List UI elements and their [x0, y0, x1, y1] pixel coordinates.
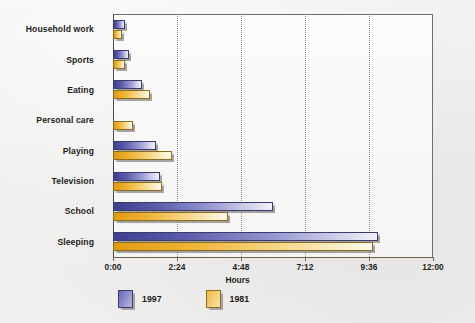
- gridline: [305, 14, 306, 257]
- x-tick-label: 9:36: [361, 262, 378, 272]
- category-label-sports: Sports: [0, 55, 94, 65]
- bar-school-1981[interactable]: [113, 212, 228, 221]
- bar-household-work-1997[interactable]: [113, 20, 125, 29]
- legend-swatch-1981: [206, 290, 221, 308]
- bar-eating-1997[interactable]: [113, 80, 142, 89]
- category-label-eating: Eating: [0, 85, 94, 95]
- legend-label-1981: 1981: [230, 294, 250, 304]
- x-axis-line: [113, 257, 434, 258]
- bar-television-1997[interactable]: [113, 172, 160, 181]
- x-tick-label: 2:24: [169, 262, 186, 272]
- bar-school-1997[interactable]: [113, 202, 273, 211]
- legend-label-1997: 1997: [142, 294, 162, 304]
- x-tick-label: 4:48: [233, 262, 250, 272]
- category-label-household-work: Household work: [0, 24, 94, 34]
- x-tick-label: 7:12: [297, 262, 314, 272]
- tick-mark: [369, 257, 370, 261]
- category-label-playing: Playing: [0, 146, 94, 156]
- tick-mark: [433, 257, 434, 261]
- category-label-sleeping: Sleeping: [0, 237, 94, 247]
- bar-sleeping-1981[interactable]: [113, 242, 373, 251]
- tick-mark: [305, 257, 306, 261]
- bar-personal-care-1981[interactable]: [113, 121, 133, 130]
- category-label-school: School: [0, 206, 94, 216]
- legend-item-1981[interactable]: 1981: [206, 290, 250, 308]
- bar-playing-1981[interactable]: [113, 151, 172, 160]
- bar-sleeping-1997[interactable]: [113, 232, 378, 241]
- x-axis-title: Hours: [0, 275, 475, 285]
- legend: 1997 1981: [118, 290, 249, 308]
- bar-household-work-1981[interactable]: [113, 30, 122, 39]
- bar-eating-1981[interactable]: [113, 90, 150, 99]
- gridline: [241, 14, 242, 257]
- bar-sports-1997[interactable]: [113, 50, 129, 59]
- x-tick-label: 12:00: [422, 262, 443, 272]
- legend-swatch-1997: [118, 290, 133, 308]
- bar-television-1981[interactable]: [113, 182, 162, 191]
- tick-mark: [113, 257, 114, 261]
- category-label-personal-care: Personal care: [0, 115, 94, 125]
- gridline: [369, 14, 370, 257]
- x-tick-label: 0:00: [105, 262, 122, 272]
- bar-playing-1997[interactable]: [113, 141, 156, 150]
- legend-item-1997[interactable]: 1997: [118, 290, 162, 308]
- bar-sports-1981[interactable]: [113, 60, 125, 69]
- category-label-television: Television: [0, 176, 94, 186]
- tick-mark: [177, 257, 178, 261]
- tick-mark: [241, 257, 242, 261]
- bar-chart: 0:002:244:487:129:3612:00 Household work…: [0, 0, 475, 323]
